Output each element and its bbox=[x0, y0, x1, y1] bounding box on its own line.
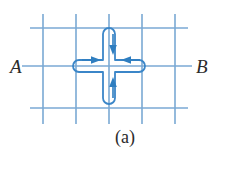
terminal-label-b: B bbox=[196, 57, 208, 76]
circuit-grid-diagram bbox=[0, 0, 250, 178]
left-arm-arrow bbox=[82, 56, 101, 64]
figure-caption: (a) bbox=[0, 128, 250, 146]
figure-container: A B (a) bbox=[0, 0, 250, 178]
grid-lines bbox=[22, 14, 192, 124]
terminal-label-a: A bbox=[10, 57, 22, 76]
right-arm-arrow bbox=[121, 56, 140, 64]
